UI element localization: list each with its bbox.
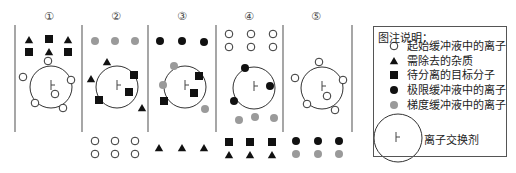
legend-label: 待分离的目标分子	[407, 69, 495, 83]
ion-exchange-diagram: ① ② ③ ④ ⑤	[0, 0, 516, 173]
legend-exchanger-label: 离子交换剂	[424, 131, 479, 147]
legend-label: 梯度缓冲液中的离子	[407, 99, 506, 113]
legend: 图注说明： 起始缓冲液中的离子 需除去的杂质 待分离的目标分子 极限缓冲液中的离…	[373, 26, 507, 157]
legend-item-impurity: 需除去的杂质	[374, 55, 508, 69]
panel-1	[19, 35, 75, 112]
panel-4	[225, 30, 278, 158]
legend-item-start-buffer-ion: 起始缓冲液中的离子	[374, 40, 508, 54]
panel-2	[87, 37, 146, 158]
legend-label: 需除去的杂质	[407, 55, 473, 69]
panel-5	[291, 58, 347, 158]
legend-item-limit-buffer-ion: 极限缓冲液中的离子	[374, 84, 508, 98]
legend-label: 起始缓冲液中的离子	[407, 40, 506, 54]
legend-item-target-molecule: 待分离的目标分子	[374, 69, 508, 83]
legend-item-gradient-buffer-ion: 梯度缓冲液中的离子	[374, 99, 508, 113]
legend-label: 极限缓冲液中的离子	[407, 84, 506, 98]
panel-3	[155, 37, 209, 151]
